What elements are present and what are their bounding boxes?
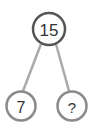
part-node-left: 7 bbox=[7, 92, 36, 121]
connector-right bbox=[56, 44, 69, 91]
whole-value: 15 bbox=[40, 21, 59, 40]
connector-left bbox=[23, 44, 41, 91]
part-value-left: 7 bbox=[17, 99, 26, 116]
number-bond-diagram: 15 7 ? bbox=[0, 0, 96, 134]
part-value-right-unknown: ? bbox=[68, 99, 76, 116]
whole-node: 15 bbox=[33, 13, 65, 45]
part-node-right: ? bbox=[58, 92, 87, 121]
